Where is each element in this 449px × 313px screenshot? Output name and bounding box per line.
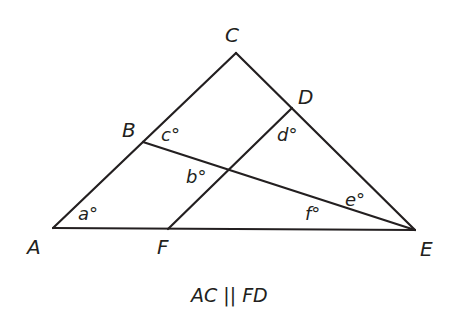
angle-label-c: c° [161, 124, 180, 145]
vertex-label-c: C [225, 23, 239, 47]
angle-label-f: f° [305, 203, 320, 224]
vertex-label-a: A [25, 235, 41, 259]
segment-ac [53, 53, 236, 228]
angle-label-d: d° [277, 124, 297, 145]
parallel-caption: AC || FD [189, 284, 268, 307]
segment-ae [53, 228, 415, 230]
segment-be [143, 142, 415, 230]
vertex-label-e: E [420, 237, 433, 261]
angle-label-b: b° [186, 166, 206, 187]
angle-label-e: e° [345, 189, 365, 210]
triangle-diagram: C D B A F E a° b° c° d° e° f° AC || FD [0, 0, 449, 313]
vertex-label-d: D [298, 85, 313, 109]
angle-label-a: a° [78, 203, 98, 224]
vertex-label-f: F [157, 235, 169, 259]
segment-ce [236, 53, 415, 230]
vertex-label-b: B [122, 118, 136, 142]
